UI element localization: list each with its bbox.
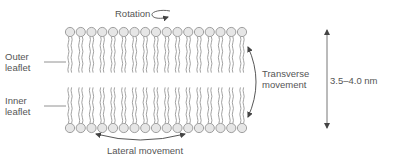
- lipid-head: [227, 27, 236, 36]
- lipid-head: [98, 123, 107, 132]
- lipid-head: [237, 123, 246, 132]
- lipid-head: [87, 123, 96, 132]
- transverse-movement-arrow-icon: [248, 47, 256, 117]
- lipid-head: [216, 27, 225, 36]
- outer-leaflet-label-line2: leaflet: [5, 62, 30, 73]
- lipid-head: [65, 123, 74, 132]
- lipid-head: [76, 123, 85, 132]
- lipid-head: [205, 27, 214, 36]
- lipid-head: [162, 123, 171, 132]
- lipid-tails: [68, 37, 244, 124]
- lipid-head: [227, 123, 236, 132]
- lipid-head: [141, 123, 150, 132]
- lipid-head: [205, 123, 214, 132]
- lipid-head: [216, 123, 225, 132]
- inner-leaflet-label-line2: leaflet: [5, 106, 30, 117]
- rotation-arrow-icon: [152, 10, 170, 18]
- lipid-head: [162, 27, 171, 36]
- lipid-bilayer-diagram: Rotation Outer leaflet Inner leaflet Tra…: [0, 0, 393, 163]
- lipid-head: [151, 27, 160, 36]
- inner-leaflet-label: Inner leaflet: [5, 95, 30, 117]
- lipid-head: [194, 123, 203, 132]
- lipid-head: [98, 27, 107, 36]
- lipid-head: [173, 27, 182, 36]
- lipid-head: [141, 27, 150, 36]
- lipid-head: [151, 123, 160, 132]
- transverse-label-line2: movement: [262, 79, 309, 90]
- lipid-head: [237, 27, 246, 36]
- lipid-head: [119, 27, 128, 36]
- thickness-label: 3.5–4.0 nm: [330, 75, 378, 86]
- lipid-head: [108, 27, 117, 36]
- lipid-head: [130, 27, 139, 36]
- lipid-head: [108, 123, 117, 132]
- lipid-head: [194, 27, 203, 36]
- lipid-head: [173, 123, 182, 132]
- transverse-label-line1: Transverse: [262, 68, 309, 79]
- lipid-head: [76, 27, 85, 36]
- lateral-movement-label: Lateral movement: [107, 145, 183, 156]
- outer-leaflet-label-line1: Outer: [5, 51, 30, 62]
- lipid-head: [184, 123, 193, 132]
- lipid-head: [119, 123, 128, 132]
- outer-leaflet-label: Outer leaflet: [5, 51, 30, 73]
- lipid-head: [65, 27, 74, 36]
- rotation-label: Rotation: [115, 8, 150, 19]
- lipid-head: [184, 27, 193, 36]
- inner-leaflet-label-line1: Inner: [5, 95, 30, 106]
- lipid-head: [130, 123, 139, 132]
- lateral-movement-arrow-icon: [96, 134, 185, 140]
- lipid-head: [87, 27, 96, 36]
- transverse-movement-label: Transverse movement: [262, 68, 309, 90]
